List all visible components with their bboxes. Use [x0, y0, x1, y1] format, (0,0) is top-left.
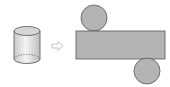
net-top-circle: [81, 5, 107, 31]
net-bottom-circle: [134, 58, 160, 84]
net-rectangle: [76, 31, 165, 59]
cylinder-icon: [14, 27, 40, 64]
cylinder-net: [76, 5, 165, 84]
right-arrow-icon: [52, 42, 63, 51]
cylinder-net-diagram: [0, 0, 170, 87]
